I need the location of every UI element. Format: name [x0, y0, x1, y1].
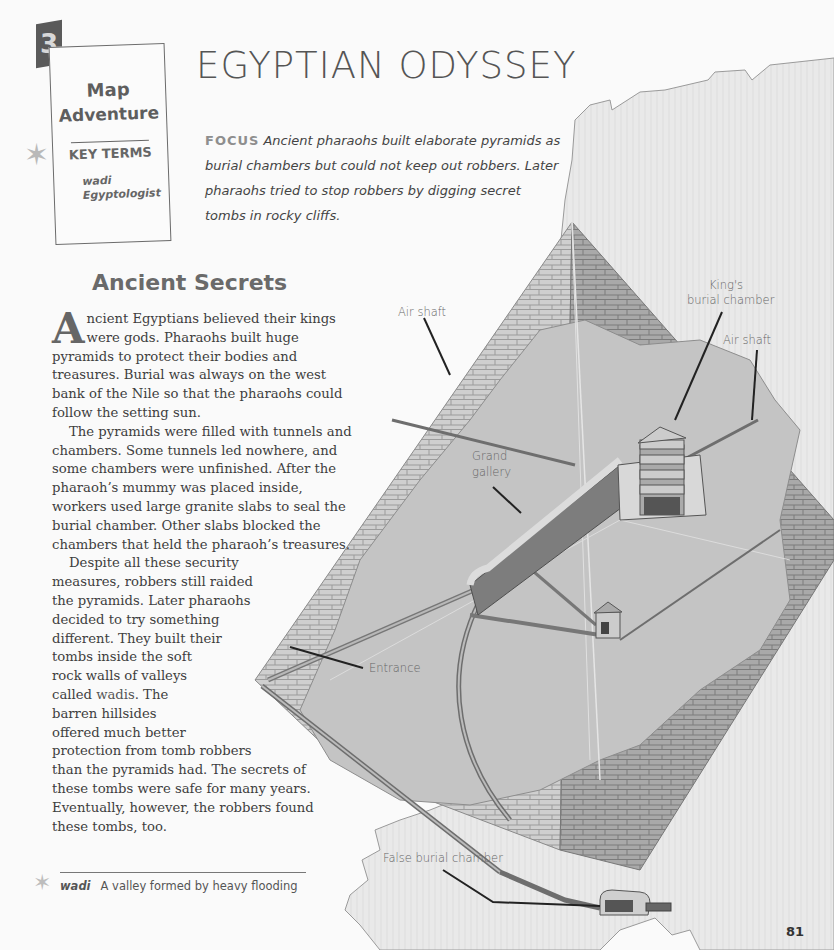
label-kings-chamber-2: burial chamber [687, 293, 774, 307]
paragraph-2: The pyramids were filled with tunnels an… [52, 423, 352, 555]
label-air-shaft-left: Air shaft [398, 305, 446, 319]
box-title-map: Map [51, 77, 166, 102]
glossary-term: wadi [60, 879, 91, 893]
paragraph-3: Despite all these security [52, 554, 352, 573]
body-text: Ancient Egyptians believed their kings w… [52, 310, 352, 836]
drop-cap: A [52, 312, 85, 346]
label-grand-gallery-2: gallery [472, 465, 511, 479]
key-terms-box: Map Adventure KEY TERMS wadi Egyptologis… [49, 43, 172, 245]
paragraph-1: Ancient Egyptians believed their kings w… [52, 310, 352, 423]
label-air-shaft-right: Air shaft [723, 333, 771, 347]
page-title: EGYPTIAN ODYSSEY [196, 44, 577, 87]
label-kings-chamber-1: King's [709, 278, 743, 292]
key-terms-label: KEY TERMS [53, 144, 167, 163]
wadi-term-link[interactable]: wadis [96, 687, 135, 702]
label-entrance: Entrance [369, 661, 421, 675]
key-term-wadi: wadi [82, 174, 112, 188]
label-false-burial-chamber: False burial chamber [383, 851, 503, 865]
glossary-definition: A valley formed by heavy flooding [101, 879, 298, 893]
star-icon: ✶ [24, 137, 49, 172]
focus-statement: FOCUSAncient pharaohs built elaborate py… [205, 128, 565, 228]
glossary-star-icon: ✶ [33, 870, 51, 895]
label-grand-gallery-1: Grand [472, 449, 507, 463]
box-title-adventure: Adventure [52, 102, 167, 126]
key-term-egyptologist: Egyptologist [83, 186, 161, 202]
focus-label: FOCUS [205, 133, 259, 148]
glossary-divider [60, 872, 306, 873]
glossary-entry: wadiA valley formed by heavy flooding [60, 879, 298, 893]
box-divider [71, 140, 149, 144]
page-number: 81 [786, 924, 804, 939]
section-heading: Ancient Secrets [92, 270, 287, 295]
